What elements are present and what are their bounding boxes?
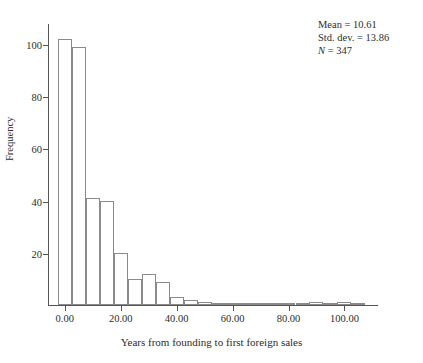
x-tick-label: 40.00 <box>165 313 189 324</box>
histogram-bar <box>100 201 114 305</box>
x-tick-label: 80.00 <box>277 313 301 324</box>
histogram-bar <box>86 198 100 305</box>
histogram-bar <box>142 274 156 305</box>
y-tick-label: 20 <box>12 248 42 259</box>
x-tick <box>289 306 290 311</box>
y-tick <box>43 202 48 203</box>
y-tick-label: 60 <box>12 144 42 155</box>
histogram-bar <box>58 39 72 305</box>
histogram-bar <box>351 303 365 305</box>
x-axis-title: Years from founding to first foreign sal… <box>0 336 423 348</box>
histogram-bar <box>184 300 198 305</box>
y-tick-label: 80 <box>12 92 42 103</box>
histogram-bar <box>72 47 86 306</box>
x-tick <box>233 306 234 311</box>
histogram-bar <box>309 302 323 305</box>
histogram-bar <box>296 303 310 305</box>
y-tick <box>43 149 48 150</box>
histogram-bar <box>323 303 337 305</box>
histogram-bar <box>240 303 254 305</box>
x-tick-label: 60.00 <box>221 313 245 324</box>
histogram-bar <box>268 303 282 305</box>
histogram-bar <box>128 279 142 305</box>
histogram-bar <box>226 303 240 305</box>
histogram-bar <box>170 297 184 305</box>
histogram-bar <box>337 302 351 305</box>
x-tick <box>121 306 122 311</box>
bars-group <box>48 24 378 306</box>
histogram-bar <box>198 302 212 305</box>
x-tick <box>177 306 178 311</box>
x-tick <box>65 306 66 311</box>
x-tick-label: 0.00 <box>56 313 74 324</box>
y-tick <box>43 97 48 98</box>
histogram-bar <box>212 303 226 305</box>
histogram-bar <box>156 282 170 306</box>
y-tick-label: 100 <box>12 39 42 50</box>
histogram-bar <box>114 253 128 305</box>
plot-area: 20406080100 0.0020.0040.0060.0080.00100.… <box>48 24 378 306</box>
x-tick-label: 100.00 <box>330 313 359 324</box>
x-tick <box>344 306 345 311</box>
y-tick <box>43 45 48 46</box>
histogram-figure: Mean = 10.61 Std. dev. = 13.86 N = 347 F… <box>0 0 423 363</box>
x-tick-label: 20.00 <box>109 313 133 324</box>
y-tick <box>43 254 48 255</box>
y-tick-label: 40 <box>12 196 42 207</box>
histogram-bar <box>254 303 268 305</box>
histogram-bar <box>282 303 296 305</box>
